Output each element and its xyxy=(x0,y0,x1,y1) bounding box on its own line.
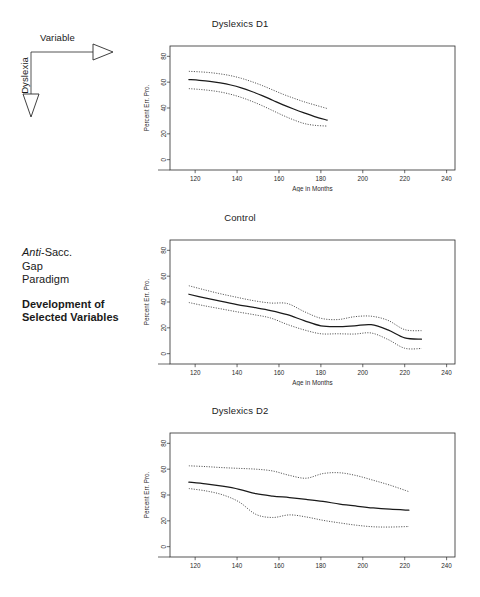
x-tick-label: 120 xyxy=(190,369,201,376)
x-tick-label: 160 xyxy=(274,562,285,569)
plot-frame xyxy=(170,433,455,557)
chart-title-2: Dyslexics D2 xyxy=(0,405,480,416)
plot-area-2: 120140160180200220240020406080Percent Er… xyxy=(140,427,480,579)
y-tick-label: 0 xyxy=(160,351,167,355)
caption-anti-italic: Anti xyxy=(22,246,41,258)
x-tick-label: 140 xyxy=(232,175,243,182)
variable-arrow-head-icon xyxy=(93,44,113,60)
series-fit xyxy=(189,294,422,339)
y-tick-label: 0 xyxy=(160,157,167,161)
x-tick-label: 180 xyxy=(316,562,327,569)
plot-area-1: 120140160180200220240020406080Percent Er… xyxy=(140,234,480,386)
x-tick-label: 140 xyxy=(232,369,243,376)
x-axis-title: Age in Months xyxy=(292,185,332,193)
x-tick-label: 220 xyxy=(399,369,410,376)
y-tick-label: 80 xyxy=(160,52,167,60)
x-tick-label: 120 xyxy=(190,562,201,569)
y-axis-title: Percent Err. Pro. xyxy=(143,471,150,518)
x-tick-label: 180 xyxy=(316,175,327,182)
axis-diagram-variable-label: Variable xyxy=(40,32,75,43)
caption-paradigm-line-3: Paradigm xyxy=(22,273,150,287)
x-axis-title: Age in Months xyxy=(292,379,332,387)
x-tick-label: 240 xyxy=(441,562,452,569)
series-upper-ci xyxy=(189,286,422,331)
y-tick-label: 20 xyxy=(160,324,167,332)
axis-diagram-svg xyxy=(18,32,138,127)
y-tick-label: 80 xyxy=(160,246,167,254)
y-tick-label: 60 xyxy=(160,465,167,473)
caption-headline-line-1: Development of xyxy=(22,298,150,312)
y-tick-label: 40 xyxy=(160,298,167,306)
dyslexia-arrow-head-icon xyxy=(23,94,39,117)
chart-svg-0: 120140160180200220240020406080Percent Er… xyxy=(140,40,480,192)
x-tick-label: 160 xyxy=(274,369,285,376)
series-lower-ci xyxy=(189,303,422,349)
y-axis-title: Percent Err. Pro. xyxy=(143,278,150,325)
x-tick-label: 200 xyxy=(358,369,369,376)
x-tick-label: 240 xyxy=(441,175,452,182)
caption-headline-line-2: Selected Variables xyxy=(22,311,150,325)
chart-svg-1: 120140160180200220240020406080Percent Er… xyxy=(140,234,480,386)
y-tick-label: 60 xyxy=(160,78,167,86)
x-tick-label: 200 xyxy=(358,175,369,182)
plot-frame xyxy=(170,46,455,170)
x-tick-label: 240 xyxy=(441,369,452,376)
caption-spacer xyxy=(22,287,150,298)
series-upper-ci xyxy=(189,71,327,108)
series-upper-ci xyxy=(189,466,409,492)
y-axis-title: Percent Err. Pro. xyxy=(143,84,150,131)
y-tick-label: 40 xyxy=(160,491,167,499)
caption-sacc-rest: -Sacc. xyxy=(41,246,72,258)
caption-paradigm-line-1: Anti-Sacc. xyxy=(22,246,150,260)
plot-area-0: 120140160180200220240020406080Percent Er… xyxy=(140,40,480,192)
axis-diagram: Variable Dyslexia xyxy=(18,32,138,127)
chart-svg-2: 120140160180200220240020406080Percent Er… xyxy=(140,427,480,579)
series-fit xyxy=(189,80,327,121)
x-tick-label: 160 xyxy=(274,175,285,182)
y-tick-label: 20 xyxy=(160,517,167,525)
plot-frame xyxy=(170,240,455,364)
x-tick-label: 120 xyxy=(190,175,201,182)
y-tick-label: 0 xyxy=(160,544,167,548)
caption-block: Anti-Sacc. Gap Paradigm Development of S… xyxy=(22,246,150,325)
x-tick-label: 220 xyxy=(399,175,410,182)
axis-diagram-dyslexia-label: Dyslexia xyxy=(19,57,30,94)
chart-title-1: Control xyxy=(0,212,480,223)
y-tick-label: 80 xyxy=(160,439,167,447)
x-tick-label: 200 xyxy=(358,562,369,569)
y-tick-label: 60 xyxy=(160,272,167,280)
y-tick-label: 20 xyxy=(160,130,167,138)
caption-paradigm-line-2: Gap xyxy=(22,260,150,274)
x-tick-label: 220 xyxy=(399,562,410,569)
y-tick-label: 40 xyxy=(160,104,167,112)
x-tick-label: 180 xyxy=(316,369,327,376)
x-tick-label: 140 xyxy=(232,562,243,569)
chart-title-0: Dyslexics D1 xyxy=(0,18,480,29)
series-fit xyxy=(189,482,409,510)
